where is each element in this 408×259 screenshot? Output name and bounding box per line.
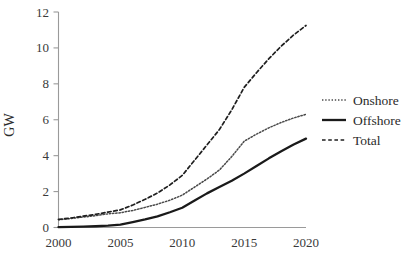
y-tick-label: 12 xyxy=(36,5,49,20)
x-tick-label: 2005 xyxy=(107,235,133,250)
legend-label-onshore: Onshore xyxy=(353,93,399,108)
y-axis-tick-labels: 024681012 xyxy=(36,5,50,236)
series-line-onshore xyxy=(59,114,307,219)
x-axis-tick-labels: 20002005201020152020 xyxy=(46,235,320,250)
chart-legend: OnshoreOffshoreTotal xyxy=(322,93,401,148)
axis-tick-marks xyxy=(54,12,59,228)
x-tick-label: 2020 xyxy=(293,235,319,250)
series-lines xyxy=(59,25,307,227)
legend-label-offshore: Offshore xyxy=(353,113,401,128)
line-chart: 024681012 20002005201020152020 GW Onshor… xyxy=(0,0,408,259)
y-axis-title: GW xyxy=(2,113,17,137)
y-tick-label: 4 xyxy=(43,148,50,163)
series-line-total xyxy=(59,25,307,219)
x-tick-label: 2000 xyxy=(46,235,72,250)
y-tick-label: 6 xyxy=(43,112,50,127)
y-tick-label: 2 xyxy=(43,184,50,199)
chart-figure: 024681012 20002005201020152020 GW Onshor… xyxy=(0,0,408,259)
y-tick-label: 0 xyxy=(43,220,50,235)
x-tick-label: 2010 xyxy=(169,235,195,250)
legend-label-total: Total xyxy=(353,133,381,148)
x-tick-label: 2015 xyxy=(231,235,257,250)
y-tick-label: 8 xyxy=(43,76,50,91)
y-tick-label: 10 xyxy=(36,40,49,55)
